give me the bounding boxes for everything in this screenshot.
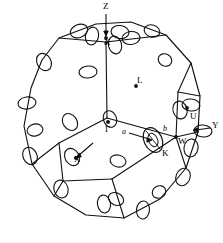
brillouin-zone-drawing xyxy=(0,0,223,243)
label-b: b xyxy=(163,124,167,133)
label-x-top: X xyxy=(104,38,111,47)
label-z: Z xyxy=(103,2,109,11)
interior-edges xyxy=(32,35,200,218)
figure-canvas: Z X L U Y W K a b Γ X xyxy=(0,0,223,243)
label-a: a xyxy=(122,127,126,136)
label-u: U xyxy=(190,112,197,121)
label-gamma: Γ xyxy=(105,125,110,134)
label-w: W xyxy=(178,137,187,146)
label-k: K xyxy=(162,149,169,158)
label-y: Y xyxy=(212,121,219,130)
label-l: L xyxy=(137,76,143,85)
polyhedron-outline xyxy=(24,22,200,218)
label-x-left: X xyxy=(74,155,81,164)
symmetry-point-dots xyxy=(74,36,189,160)
